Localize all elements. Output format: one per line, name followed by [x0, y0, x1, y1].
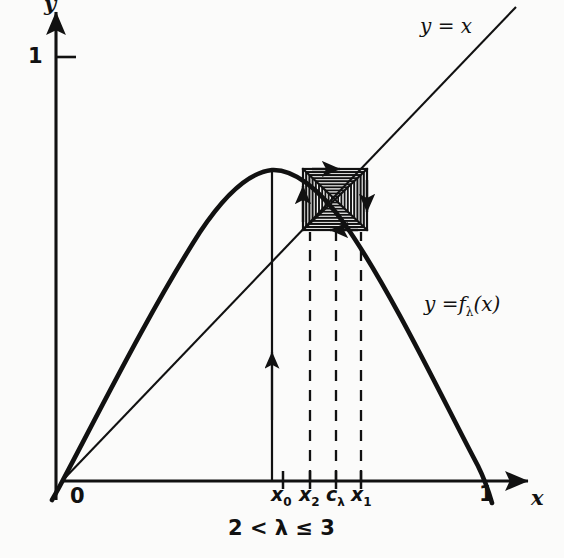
x-tick-label-x0-base: x [271, 483, 283, 505]
x-tick-label-clambda: cλ [326, 485, 345, 508]
x-tick-label-x1: x1 [351, 485, 372, 508]
x-tick-label-one: 1 [479, 484, 494, 505]
x-tick-label-x2: x2 [299, 485, 320, 508]
x-tick-label-x2-base: x [299, 483, 311, 505]
cobweb-diagram-figure: y 1 0 1 x x0 x2 cλ x1 y = x y =fλ(x) 2 <… [0, 0, 564, 558]
logistic-label-y: y [424, 292, 435, 316]
cobweb-spiral [303, 169, 367, 230]
origin-label: 0 [70, 486, 85, 507]
x-tick-label-x1-sub: 1 [363, 495, 371, 509]
x-tick-label-x0-sub: 0 [283, 495, 291, 509]
identity-label-x: x [461, 14, 472, 38]
logistic-label-arg: (x) [473, 292, 500, 316]
identity-line-label: y = x [420, 16, 472, 36]
diagram-canvas [0, 0, 564, 558]
logistic-curve-label: y =fλ(x) [424, 294, 500, 318]
logistic-label-f: f [458, 292, 465, 316]
figure-caption: 2 < λ ≤ 3 [228, 518, 335, 539]
x-axis-label: x [531, 487, 544, 508]
x-tick-label-x1-base: x [351, 483, 363, 505]
dashed-projection-lines [310, 232, 361, 481]
x-tick-label-clambda-sub: λ [337, 495, 345, 509]
x-tick-label-clambda-base: c [326, 483, 337, 505]
identity-label-y: y [420, 14, 431, 38]
logistic-label-eq: = [442, 292, 459, 316]
y-axis-label: y [44, 0, 56, 14]
x-tick-label-x0: x0 [271, 485, 292, 508]
y-tick-label-one: 1 [28, 46, 43, 67]
x-tick-label-x2-sub: 2 [311, 495, 319, 509]
identity-label-eq: = [438, 14, 455, 38]
